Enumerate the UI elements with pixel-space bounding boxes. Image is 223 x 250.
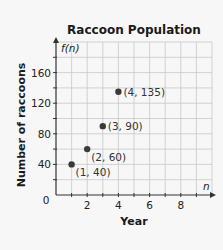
scatter-chart: Raccoon Population 24684080120160 f(n) n… [0, 0, 223, 250]
y-axis-arrow-icon [53, 37, 59, 43]
data-point-label: (3, 90) [108, 120, 143, 132]
y-tick-label: 80 [38, 128, 51, 140]
data-point [100, 123, 106, 129]
data-point [115, 89, 121, 95]
chart-title: Raccoon Population [67, 23, 201, 37]
x-tick-label: 4 [115, 199, 122, 211]
data-point [68, 161, 74, 167]
y-axis-variable: f(n) [61, 42, 80, 54]
y-tick-label: 160 [31, 67, 51, 79]
y-tick-label: 40 [38, 158, 51, 170]
y-axis-label: Number of raccoons [15, 62, 28, 187]
data-point [84, 146, 90, 152]
x-tick-label: 2 [84, 199, 91, 211]
x-axis-label: Year [119, 215, 148, 228]
origin-label: 0 [43, 194, 50, 206]
x-tick-label: 6 [146, 199, 153, 211]
data-point-label: (4, 135) [123, 86, 165, 98]
y-tick-label: 120 [31, 97, 51, 109]
x-axis-variable: n [203, 180, 210, 192]
data-point-label: (2, 60) [91, 151, 126, 163]
x-axis-arrow-icon [210, 192, 216, 198]
x-tick-label: 8 [177, 199, 184, 211]
data-point-label: (1, 40) [76, 166, 111, 178]
